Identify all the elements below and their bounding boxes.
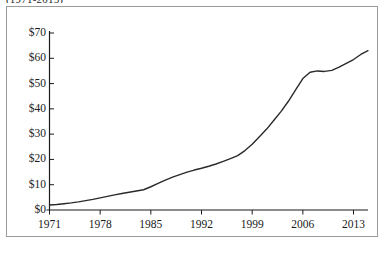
x-tick-label: 1978 [89, 218, 112, 230]
x-tick-label: 1971 [38, 218, 61, 230]
x-tick-label: 2006 [291, 218, 314, 230]
x-axis-tick-labels: 1971197819851992199920062013 [0, 0, 390, 253]
x-tick-label: 2013 [342, 218, 365, 230]
x-tick-label: 1992 [190, 218, 213, 230]
chart-figure: (1971-2015) $70$60$50$40$30$20$10$0 1971… [0, 0, 390, 253]
bottom-text-artifact [10, 246, 380, 252]
x-tick-label: 1985 [139, 218, 162, 230]
x-tick-label: 1999 [241, 218, 264, 230]
